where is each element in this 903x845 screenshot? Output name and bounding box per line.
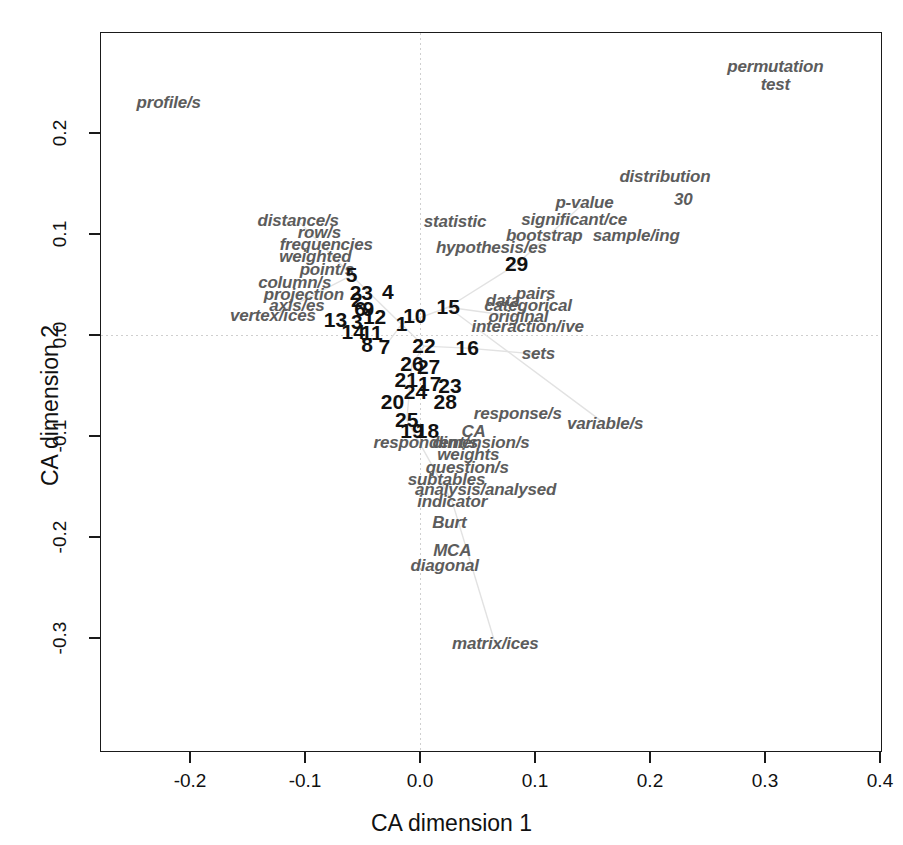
- y-tick: [89, 435, 100, 437]
- chapter-number-label: 29: [505, 252, 528, 276]
- chapter-number-label: 7: [379, 335, 391, 359]
- term-label: hypothesis/es: [436, 238, 547, 258]
- x-tick: [189, 752, 191, 763]
- chapter-number-label: 4: [382, 280, 394, 304]
- x-tick: [304, 752, 306, 763]
- term-label: matrix/ices: [452, 634, 539, 654]
- x-tick: [534, 752, 536, 763]
- term-label: test: [761, 75, 790, 95]
- chapter-number-label: 24: [404, 380, 427, 404]
- term-label: distribution: [619, 167, 710, 187]
- x-tick-label: 0.4: [867, 770, 893, 792]
- chapter-number-label: 15: [436, 295, 459, 319]
- x-tick: [764, 752, 766, 763]
- x-axis-title: CA dimension 1: [0, 810, 903, 837]
- term-label: interaction/ive: [471, 317, 583, 337]
- y-tick: [89, 637, 100, 639]
- y-tick: [89, 334, 100, 336]
- chapter-number-label: 18: [416, 419, 439, 443]
- y-axis-title: CA dimension 2: [37, 26, 64, 786]
- term-label: sample/ing: [593, 226, 680, 246]
- x-tick: [419, 752, 421, 763]
- chapter-number-label: 8: [361, 333, 373, 357]
- chapter-number-label: 1: [396, 312, 408, 336]
- x-tick: [879, 752, 881, 763]
- x-tick-label: 0.2: [637, 770, 663, 792]
- x-tick-label: -0.2: [174, 770, 207, 792]
- chapter-number-label: 16: [455, 336, 478, 360]
- term-label: diagonal: [411, 556, 479, 576]
- y-tick: [89, 536, 100, 538]
- x-tick-label: 0.0: [407, 770, 433, 792]
- y-tick: [89, 233, 100, 235]
- chapter-number-label: 28: [434, 390, 457, 414]
- term-label: vertex/ices: [230, 306, 316, 326]
- term-label: indicator: [417, 492, 487, 512]
- term-label: sets: [522, 344, 555, 364]
- term-label: 30: [674, 190, 693, 210]
- y-tick: [89, 132, 100, 134]
- x-tick-label: 0.3: [752, 770, 778, 792]
- x-tick-label: -0.1: [289, 770, 322, 792]
- term-label: profile/s: [137, 93, 201, 113]
- term-label: statistic: [424, 212, 486, 232]
- term-label: response/s: [474, 404, 562, 424]
- x-tick: [649, 752, 651, 763]
- x-tick-label: 0.1: [522, 770, 548, 792]
- ca-biplot: -0.2-0.10.00.10.20.30.4 0.20.10.0-0.1-0.…: [0, 0, 903, 845]
- term-label: Burt: [432, 513, 466, 533]
- term-label: variable/s: [567, 414, 643, 434]
